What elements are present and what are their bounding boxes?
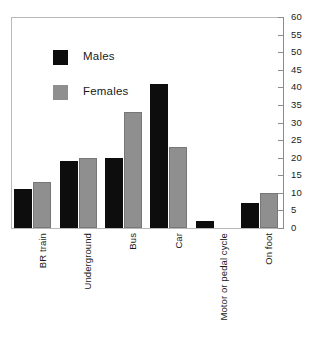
x-axis-label-4: Motor or pedal cycle (218, 233, 229, 321)
legend-swatch-females-icon (53, 85, 68, 100)
bar-chart: 051015202530354045505560 BR trainUndergr… (0, 0, 320, 338)
y-tick-label: 35 (291, 100, 302, 110)
legend-label-males: Males (83, 51, 115, 63)
legend-swatch-males-icon (53, 50, 68, 65)
y-tick-label: 30 (291, 118, 302, 128)
bar-males-4 (196, 221, 214, 228)
y-tick-label: 50 (291, 47, 302, 57)
bar-females-2 (124, 112, 142, 228)
bar-females-3 (169, 147, 187, 228)
y-tick-label: 25 (291, 135, 302, 145)
x-axis-label-3: Car (173, 233, 184, 249)
bar-females-1 (79, 158, 97, 228)
bar-males-2 (105, 158, 123, 228)
legend: Males Females (53, 45, 129, 115)
x-axis-label-5: On foot (263, 233, 274, 265)
y-tick-label: 0 (291, 223, 296, 233)
bar-males-3 (150, 84, 168, 228)
bar-males-0 (14, 189, 32, 228)
y-tick-label: 20 (291, 153, 302, 163)
x-axis-label-1: Underground (82, 233, 93, 290)
legend-item-females: Females (53, 80, 129, 104)
legend-item-males: Males (53, 45, 129, 69)
y-tick-mark (278, 228, 283, 229)
y-tick-label: 10 (291, 188, 302, 198)
legend-label-females: Females (83, 86, 129, 98)
y-tick-label: 55 (291, 30, 302, 40)
y-tick-label: 15 (291, 171, 302, 181)
bar-females-5 (260, 193, 278, 228)
bar-males-5 (241, 203, 259, 228)
y-tick-label: 5 (291, 206, 296, 216)
bar-males-1 (60, 161, 78, 228)
x-axis-baseline (11, 228, 283, 229)
y-tick-label: 45 (291, 65, 302, 75)
x-axis-label-0: BR train (37, 233, 48, 268)
bar-females-0 (33, 182, 51, 228)
y-axis-line (283, 17, 284, 229)
y-tick-label: 60 (291, 12, 302, 22)
y-tick-label: 40 (291, 83, 302, 93)
bars-layer (11, 17, 283, 228)
x-axis-label-2: Bus (127, 233, 138, 250)
